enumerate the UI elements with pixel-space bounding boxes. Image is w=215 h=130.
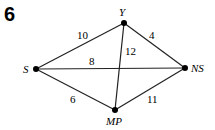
node-mp [112, 107, 118, 113]
edge-weight-s-mp: 6 [70, 93, 76, 105]
node-ns [182, 65, 188, 71]
node-label-s: S [23, 63, 29, 75]
edge-weight-y-ns: 4 [149, 29, 155, 41]
edge-s-mp [36, 69, 115, 110]
node-y [121, 20, 127, 26]
edge-weight-mp-ns: 11 [147, 93, 158, 105]
node-label-y: Y [119, 6, 127, 18]
edge-weight-s-ns: 8 [89, 55, 95, 67]
edge-weight-s-y: 10 [77, 29, 89, 41]
node-label-mp: MP [105, 115, 122, 127]
edge-y-mp [115, 23, 124, 110]
weighted-graph: S Y NS MP 10 4 8 12 6 11 [0, 0, 215, 130]
node-label-ns: NS [190, 62, 204, 74]
node-s [33, 66, 39, 72]
edge-weight-y-mp: 12 [125, 45, 136, 57]
edge-s-ns [36, 68, 185, 69]
